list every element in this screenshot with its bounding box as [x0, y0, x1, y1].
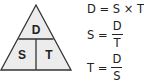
fraction-bar — [111, 67, 122, 68]
label-time: T — [45, 48, 53, 62]
dst-triangle: D S T — [0, 0, 74, 83]
eq-lhs: S — [87, 28, 94, 42]
eq-rhs: S × T — [113, 2, 144, 16]
numerator: D — [113, 20, 122, 32]
equation-speed: S = D T — [87, 20, 123, 49]
denominator: T — [114, 37, 121, 49]
fraction: D S — [111, 53, 122, 82]
eq-sign: = — [98, 28, 108, 42]
label-speed: S — [18, 48, 26, 62]
eq-lhs: T — [87, 61, 94, 75]
fraction: D T — [112, 20, 123, 49]
label-distance: D — [32, 23, 41, 37]
equation-time: T = D S — [87, 53, 122, 82]
eq-sign: = — [100, 2, 110, 16]
eq-sign: = — [98, 61, 108, 75]
fraction-bar — [112, 34, 123, 35]
eq-lhs: D — [87, 2, 96, 16]
denominator: S — [113, 70, 120, 82]
numerator: D — [112, 53, 121, 65]
equation-distance: D = S × T — [87, 2, 144, 16]
